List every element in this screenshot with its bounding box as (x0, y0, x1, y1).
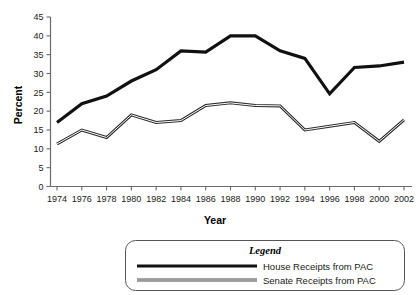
x-tick-label: 2002 (394, 194, 414, 204)
y-tick-label: 20 (33, 106, 43, 116)
chart-figure: 051015202530354045 197419761978198019821… (0, 0, 419, 295)
x-tick-label: 1980 (121, 194, 141, 204)
y-tick-label: 45 (33, 12, 43, 22)
legend-title: Legend (248, 245, 282, 256)
y-tick-label: 5 (38, 163, 43, 173)
x-axis-title: Year (204, 214, 226, 226)
x-tick-label: 1988 (220, 194, 240, 204)
y-tick-label: 40 (33, 31, 43, 41)
x-tick-label: 1990 (245, 194, 265, 204)
x-tick-label: 1978 (97, 194, 117, 204)
y-axis-title: Percent (12, 85, 24, 124)
y-tick-label: 15 (33, 125, 43, 135)
y-axis-ticks: 051015202530354045 (33, 12, 50, 192)
series-line-house (57, 36, 404, 123)
y-tick-label: 0 (38, 182, 43, 192)
x-tick-label: 1974 (47, 194, 67, 204)
line-chart: 051015202530354045 197419761978198019821… (0, 0, 419, 295)
y-tick-label: 25 (33, 88, 43, 98)
y-tick-label: 30 (33, 69, 43, 79)
x-tick-label: 1994 (295, 194, 315, 204)
legend-label-house: House Receipts from PAC (263, 261, 373, 272)
x-tick-label: 1998 (344, 194, 364, 204)
x-tick-label: 1996 (320, 194, 340, 204)
legend: Legend House Receipts from PAC Senate Re… (126, 241, 405, 291)
x-tick-label: 1984 (171, 194, 191, 204)
x-tick-label: 2000 (369, 194, 389, 204)
legend-label-senate: Senate Receipts from PAC (263, 275, 376, 286)
y-tick-label: 10 (33, 144, 43, 154)
series-line-senate (57, 103, 404, 144)
x-tick-label: 1982 (146, 194, 166, 204)
x-axis-ticks: 1974197619781980198219841986198819901992… (47, 187, 414, 204)
x-tick-label: 1976 (72, 194, 92, 204)
x-tick-label: 1986 (196, 194, 216, 204)
y-tick-label: 35 (33, 50, 43, 60)
x-tick-label: 1992 (270, 194, 290, 204)
